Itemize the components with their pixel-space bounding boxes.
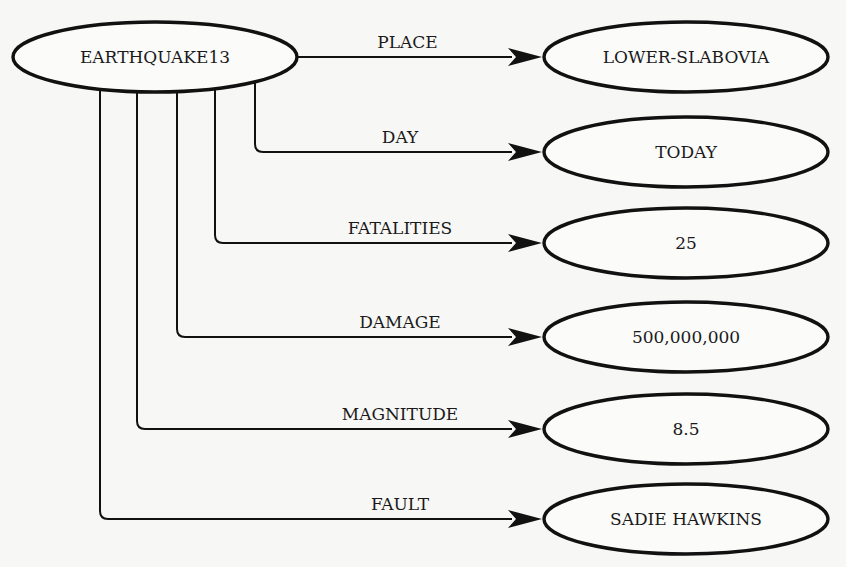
relation-label: MAGNITUDE [342, 404, 459, 424]
source-node-label: EARTHQUAKE13 [80, 47, 230, 67]
relation-label: DAMAGE [359, 312, 441, 332]
value-node-label: 8.5 [672, 419, 699, 439]
value-node: 500,000,000 [544, 302, 828, 372]
edges-layer: PLACEDAYFATALITIESDAMAGEMAGNITUDEFAULT [100, 32, 542, 528]
diagram-canvas: PLACEDAYFATALITIESDAMAGEMAGNITUDEFAULT E… [0, 0, 846, 567]
value-node: LOWER-SLABOVIA [544, 22, 828, 92]
edge-line [177, 91, 512, 337]
relation-fatalities: FATALITIES [215, 88, 542, 252]
arrowhead-icon [508, 328, 542, 346]
edge-line [137, 91, 512, 429]
value-node: SADIE HAWKINS [544, 484, 828, 554]
relation-day: DAY [255, 81, 542, 161]
arrowhead-icon [508, 510, 542, 528]
value-node: 8.5 [544, 394, 828, 464]
arrowhead-icon [508, 143, 542, 161]
nodes-layer: EARTHQUAKE13 LOWER-SLABOVIATODAY25500,00… [13, 22, 828, 554]
value-node-label: LOWER-SLABOVIA [603, 47, 770, 67]
arrowhead-icon [508, 420, 542, 438]
value-node-label: 25 [675, 233, 697, 253]
relation-label: DAY [382, 127, 419, 147]
relation-place: PLACE [297, 32, 542, 66]
value-node: TODAY [544, 117, 828, 187]
value-node-label: TODAY [655, 142, 717, 162]
earthquake-semantic-network: PLACEDAYFATALITIESDAMAGEMAGNITUDEFAULT E… [0, 0, 846, 567]
arrowhead-icon [508, 234, 542, 252]
relation-label: FAULT [371, 494, 430, 514]
arrowhead-icon [508, 48, 542, 66]
value-node-label: SADIE HAWKINS [610, 509, 762, 529]
source-node: EARTHQUAKE13 [13, 22, 297, 92]
value-node: 25 [544, 208, 828, 278]
value-node-label: 500,000,000 [632, 327, 740, 347]
relation-fault: FAULT [100, 88, 542, 528]
relation-label: FATALITIES [348, 218, 452, 238]
relation-label: PLACE [377, 32, 437, 52]
relation-magnitude: MAGNITUDE [137, 91, 542, 438]
